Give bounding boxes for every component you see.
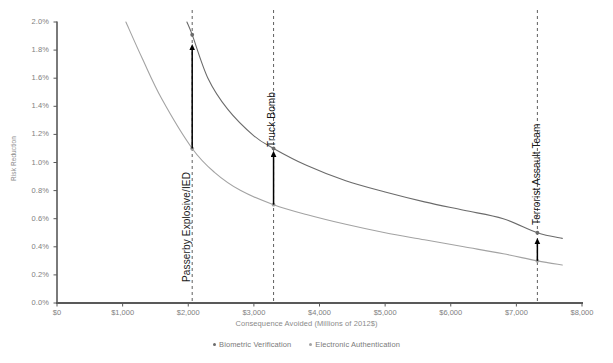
axis-lines [56, 22, 583, 304]
legend-label: Biometric Verification [219, 340, 291, 349]
series-line [187, 22, 562, 238]
data-point-marker [190, 33, 194, 37]
y-tick-label: 0.2% [15, 271, 49, 279]
y-tick-label: 1.0% [15, 159, 49, 167]
x-tick-label: $8,000 [559, 309, 605, 317]
legend-swatch-icon [213, 343, 216, 346]
annotation-dashed-lines [192, 10, 537, 303]
x-tick-label: $3,000 [231, 309, 277, 317]
y-tick-label: 0.4% [15, 243, 49, 251]
legend-item[interactable]: Electronic Authentication [309, 340, 400, 349]
y-tick-label: 2.0% [15, 18, 49, 26]
y-axis-title: Risk Reduction [10, 124, 17, 194]
x-tick-label: $6,000 [428, 309, 474, 317]
y-tick-label: 1.6% [15, 74, 49, 82]
data-point-marker [272, 147, 276, 151]
x-tick-label: $1,000 [100, 309, 146, 317]
legend-item[interactable]: Biometric Verification [213, 340, 291, 349]
x-tick-label: $5,000 [362, 309, 408, 317]
annotation-label: Truck Bomb [266, 92, 277, 147]
x-axis-title: Consequence Avoided (Millions of 2012$) [0, 319, 613, 328]
y-tick-label: 1.8% [15, 46, 49, 54]
x-tick-label: $4,000 [297, 309, 343, 317]
x-tick-label: $7,000 [493, 309, 539, 317]
legend-swatch-icon [309, 343, 312, 346]
y-tick-label: 1.4% [15, 102, 49, 110]
annotation-label: Passerby Explosive/IED [181, 172, 192, 282]
x-tick-label: $2,000 [165, 309, 211, 317]
legend-label: Electronic Authentication [315, 340, 400, 349]
risk-reduction-chart: 0.0%0.2%0.4%0.6%0.8%1.0%1.2%1.4%1.6%1.8%… [0, 0, 613, 363]
annotation-label: Terrorist Assault Team [531, 124, 542, 225]
data-point-marker [535, 231, 539, 235]
chart-legend: Biometric VerificationElectronic Authent… [0, 340, 613, 349]
axis-ticks [54, 22, 583, 307]
y-tick-label: 0.6% [15, 215, 49, 223]
y-tick-label: 0.0% [15, 299, 49, 307]
x-tick-label: $0 [34, 309, 80, 317]
y-tick-label: 0.8% [15, 187, 49, 195]
y-tick-label: 1.2% [15, 130, 49, 138]
